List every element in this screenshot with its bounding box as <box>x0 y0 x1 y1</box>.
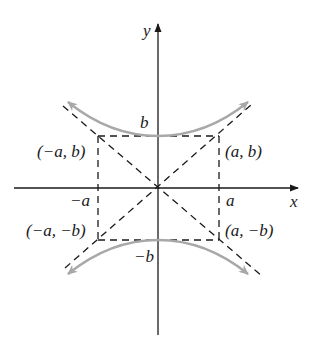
tick-label-neg-b: −b <box>134 247 154 266</box>
corner-label-top-right: (a, b) <box>225 142 262 161</box>
y-axis-label: y <box>141 21 151 40</box>
corner-label-bottom-right: (a, −b) <box>225 221 274 240</box>
tick-label-neg-a: −a <box>70 191 90 210</box>
tick-label-a: a <box>226 191 235 210</box>
hyperbola-diagram: y x b −b a −a (−a, b) (a, b) (−a, −b) (a… <box>0 0 315 342</box>
corner-label-top-left: (−a, b) <box>37 142 86 161</box>
upper-branch-right <box>158 102 248 136</box>
tick-label-b: b <box>140 113 149 132</box>
lower-branch-right <box>158 240 248 274</box>
asymptotes <box>63 104 262 276</box>
corner-label-bottom-left: (−a, −b) <box>26 221 86 240</box>
x-axis-label: x <box>289 192 298 211</box>
